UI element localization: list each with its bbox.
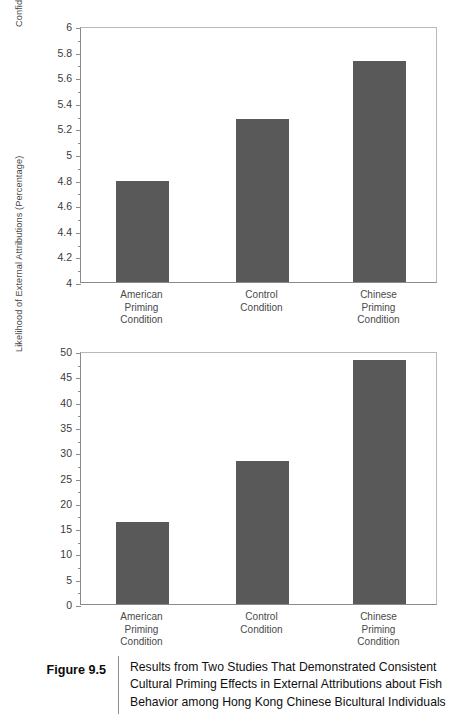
x-category-label: American Priming Condition bbox=[120, 289, 162, 327]
chart-top-y-axis-label-text: Confidence in External Attributions bbox=[14, 0, 24, 27]
figure-caption-text: Results from Two Studies That Demonstrat… bbox=[130, 656, 464, 711]
bar bbox=[116, 181, 169, 282]
chart-top-plot-area bbox=[80, 27, 437, 283]
y-tick-label: 0 bbox=[66, 599, 72, 611]
chart-bottom-bars bbox=[81, 353, 436, 604]
y-tick-label: 10 bbox=[60, 548, 72, 560]
chart-bottom-y-axis-label-text: Likelihood of External Attributions (Per… bbox=[14, 156, 24, 352]
y-tick-label: 5.4 bbox=[57, 98, 72, 110]
bar bbox=[116, 522, 169, 604]
x-category-label: American Priming Condition bbox=[120, 611, 162, 649]
y-tick-label: 6 bbox=[66, 21, 72, 33]
figure-caption: Figure 9.5 Results from Two Studies That… bbox=[0, 656, 464, 714]
chart-bottom-y-axis-label: Likelihood of External Attributions (Per… bbox=[0, 352, 22, 605]
x-category-label: Control Condition bbox=[240, 611, 282, 636]
y-tick-label: 25 bbox=[60, 473, 72, 485]
y-tick-label: 5.6 bbox=[57, 72, 72, 84]
y-tick-label: 4.4 bbox=[57, 226, 72, 238]
y-tick-label: 5.2 bbox=[57, 123, 72, 135]
caption-divider bbox=[118, 656, 119, 714]
y-tick-label: 4.6 bbox=[57, 200, 72, 212]
y-tick-label: 4.8 bbox=[57, 175, 72, 187]
y-tick-label: 45 bbox=[60, 371, 72, 383]
y-tick-mark bbox=[76, 606, 81, 607]
figure-page: Confidence in External Attributions 44.2… bbox=[0, 0, 464, 720]
y-tick-label: 40 bbox=[60, 397, 72, 409]
bar bbox=[236, 461, 289, 604]
y-tick-label: 5 bbox=[66, 574, 72, 586]
chart-top-bars bbox=[81, 28, 436, 282]
y-tick-label: 5.8 bbox=[57, 47, 72, 59]
y-tick-label: 35 bbox=[60, 422, 72, 434]
y-tick-label: 20 bbox=[60, 498, 72, 510]
y-tick-label: 4 bbox=[66, 277, 72, 289]
bar bbox=[353, 360, 406, 604]
figure-number: Figure 9.5 bbox=[0, 656, 118, 677]
y-tick-mark bbox=[76, 284, 81, 285]
y-tick-label: 50 bbox=[60, 346, 72, 358]
x-category-label: Chinese Priming Condition bbox=[357, 289, 399, 327]
x-category-label: Control Condition bbox=[240, 289, 282, 314]
bar bbox=[353, 61, 406, 282]
bar bbox=[236, 119, 289, 282]
y-tick-label: 4.2 bbox=[57, 251, 72, 263]
y-tick-label: 15 bbox=[60, 523, 72, 535]
y-tick-label: 30 bbox=[60, 447, 72, 459]
x-category-label: Chinese Priming Condition bbox=[357, 611, 399, 649]
y-tick-label: 5 bbox=[66, 149, 72, 161]
chart-bottom-plot-area bbox=[80, 352, 437, 605]
